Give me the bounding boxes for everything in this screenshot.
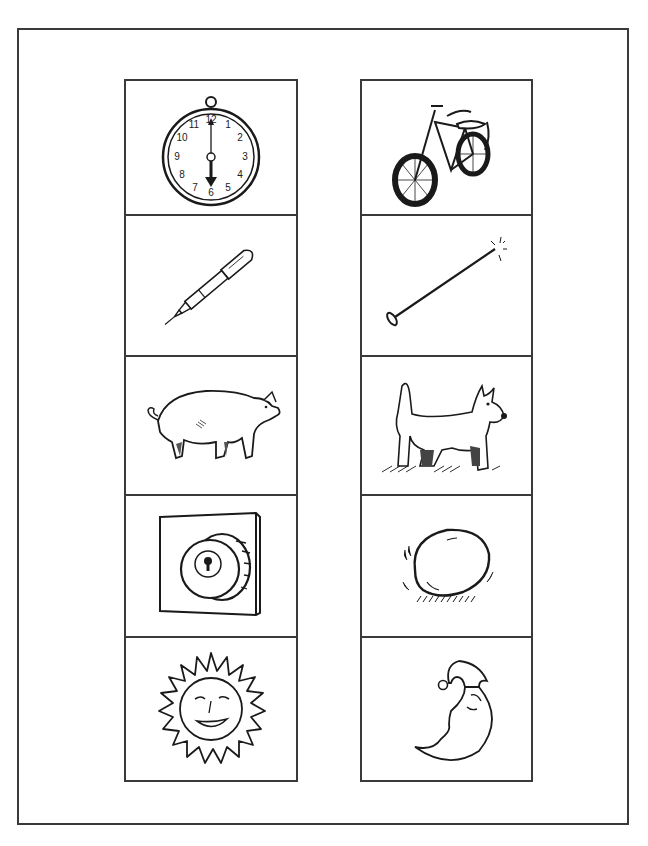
egg-icon: [387, 516, 507, 616]
picture-cell-clock[interactable]: clock 12 1 2 3 4 5 6 7 8 9 10 11: [126, 81, 296, 216]
picture-cell-sun[interactable]: sun: [126, 638, 296, 782]
moon-icon: [387, 647, 507, 772]
picture-cell-dog[interactable]: dog: [362, 357, 531, 496]
bike-icon: [387, 88, 507, 208]
svg-text:2: 2: [237, 132, 243, 143]
picture-cell-lock[interactable]: lock: [126, 496, 296, 638]
svg-text:1: 1: [225, 119, 231, 130]
right-picture-column: bike pin: [360, 79, 533, 782]
svg-text:4: 4: [237, 169, 243, 180]
picture-cell-pig[interactable]: pig: [126, 357, 296, 496]
picture-cell-pen[interactable]: pen: [126, 216, 296, 357]
svg-text:11: 11: [189, 119, 200, 130]
svg-text:5: 5: [225, 182, 231, 193]
pen-icon: [151, 231, 271, 341]
clock-icon: 12 1 2 3 4 5 6 7 8 9 10 11: [156, 85, 266, 210]
picture-cell-moon[interactable]: moon: [362, 638, 531, 782]
worksheet-frame: [17, 28, 629, 825]
left-picture-column: clock 12 1 2 3 4 5 6 7 8 9 10 11: [124, 79, 298, 782]
dog-icon: [372, 366, 522, 486]
sun-icon: [151, 649, 271, 769]
svg-text:8: 8: [179, 169, 185, 180]
lock-icon: [156, 509, 266, 624]
picture-cell-pin[interactable]: pin: [362, 216, 531, 357]
pig-icon: [136, 376, 286, 476]
svg-text:7: 7: [192, 182, 198, 193]
svg-text:10: 10: [176, 132, 188, 143]
svg-text:9: 9: [174, 151, 180, 162]
svg-text:3: 3: [242, 151, 248, 162]
pin-icon: [377, 231, 517, 341]
picture-cell-bike[interactable]: bike: [362, 81, 531, 216]
picture-cell-egg[interactable]: egg: [362, 496, 531, 638]
svg-text:6: 6: [208, 187, 214, 198]
